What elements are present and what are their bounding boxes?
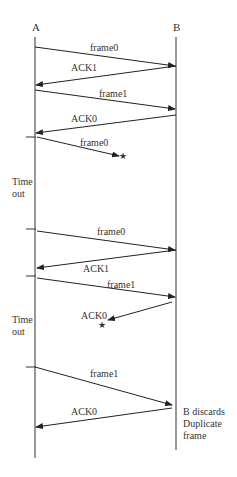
msg-label: frame0 bbox=[90, 42, 118, 53]
b-discard-note: B discards Duplicate frame bbox=[183, 406, 225, 442]
arrow-ack0-final bbox=[36, 408, 172, 427]
note-line: Duplicate bbox=[183, 418, 225, 430]
msg-label: ACK1 bbox=[71, 62, 97, 73]
arrow-frame1-2 bbox=[37, 278, 175, 297]
loss-star-icon: ★ bbox=[98, 320, 106, 331]
timeout-line2: out bbox=[12, 326, 33, 338]
note-line: B discards bbox=[183, 406, 225, 418]
note-line: frame bbox=[183, 430, 225, 442]
msg-label: frame1 bbox=[99, 88, 127, 99]
msg-label: ACK0 bbox=[71, 406, 97, 417]
arrow-ack1 bbox=[36, 66, 176, 85]
arrow-ack0 bbox=[36, 115, 176, 133]
timeout-line1: Time bbox=[12, 176, 33, 188]
loss-star-icon: ★ bbox=[119, 151, 127, 162]
msg-label: frame0 bbox=[97, 226, 125, 237]
timeout-line1: Time bbox=[12, 314, 33, 326]
msg-label: ACK0 bbox=[71, 113, 97, 124]
msg-label: ACK1 bbox=[83, 263, 109, 274]
arrow-ack0-lost bbox=[108, 302, 172, 320]
node-b-label: B bbox=[173, 22, 180, 33]
node-a-label: A bbox=[32, 22, 40, 33]
msg-label: frame1 bbox=[90, 368, 118, 379]
timeout-label: Time out bbox=[12, 314, 33, 338]
timeout-label: Time out bbox=[12, 176, 33, 200]
timeout-line2: out bbox=[12, 188, 33, 200]
msg-label: frame1 bbox=[107, 279, 135, 290]
msg-label: frame0 bbox=[80, 137, 108, 148]
